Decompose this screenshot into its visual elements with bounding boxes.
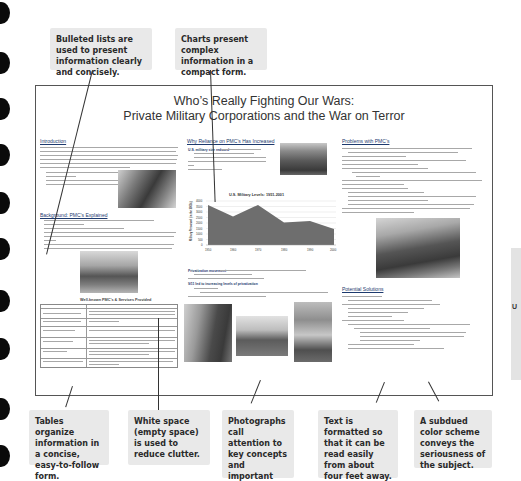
photo-hearing bbox=[376, 218, 460, 278]
svg-text:1950: 1950 bbox=[205, 248, 212, 252]
text-line bbox=[348, 192, 424, 193]
text-line bbox=[348, 324, 470, 325]
table-row bbox=[41, 337, 177, 338]
section-background: Background: PMC’s Explained bbox=[40, 212, 107, 218]
binder-hole bbox=[0, 2, 10, 24]
binder-hole bbox=[0, 238, 10, 260]
text-line bbox=[40, 167, 130, 168]
text-line bbox=[360, 340, 420, 341]
binder-hole bbox=[0, 144, 10, 166]
callout-color-scheme: A subdued color scheme conveys the serio… bbox=[414, 410, 492, 468]
svg-text:1970: 1970 bbox=[255, 248, 262, 252]
text-line bbox=[200, 292, 328, 293]
text-line bbox=[354, 328, 430, 329]
text-line bbox=[40, 155, 178, 156]
text-line bbox=[40, 151, 176, 152]
bullet-line bbox=[46, 176, 76, 177]
text-line bbox=[194, 274, 252, 275]
text-line bbox=[194, 288, 218, 289]
bullet-line bbox=[46, 180, 118, 181]
callout-white-space: White space (empty space) is used to red… bbox=[128, 410, 210, 465]
text-line bbox=[360, 336, 464, 337]
bullet-line bbox=[188, 161, 266, 162]
poster-title-line2: Private Military Corporations and the Wa… bbox=[36, 109, 492, 124]
text-line bbox=[348, 316, 392, 317]
leader-line bbox=[158, 318, 159, 410]
svg-text:0: 0 bbox=[201, 243, 203, 247]
table-row bbox=[41, 348, 177, 349]
svg-text:Military Personnel (in the 100: Military Personnel (in the 1000s) bbox=[189, 201, 193, 241]
text-line bbox=[348, 300, 432, 301]
svg-text:3500: 3500 bbox=[196, 205, 203, 209]
military-levels-chart: 400035003000 250020001500 10005000 19501… bbox=[188, 197, 338, 255]
bullet-line bbox=[188, 169, 222, 170]
svg-text:2000: 2000 bbox=[196, 221, 203, 225]
text-line bbox=[348, 200, 428, 201]
table-row bbox=[41, 308, 177, 309]
bullet-line bbox=[44, 220, 154, 221]
text-line bbox=[342, 212, 414, 213]
section-problems: Problems with PMC’s bbox=[342, 138, 389, 144]
area-chart-svg: 400035003000 250020001500 10005000 19501… bbox=[188, 197, 338, 255]
photo-smoke bbox=[294, 302, 332, 362]
binder-hole bbox=[0, 445, 10, 467]
svg-text:2500: 2500 bbox=[196, 216, 203, 220]
photo-contractor bbox=[236, 316, 288, 356]
binder-hole bbox=[0, 290, 10, 312]
photo-convoy bbox=[80, 251, 138, 293]
text-line bbox=[342, 296, 382, 297]
poster: Who’s Really Fighting Our Wars: Private … bbox=[35, 85, 493, 396]
callout-tables: Tables organize information in a concise… bbox=[29, 410, 109, 465]
text-line bbox=[348, 308, 424, 309]
text-line bbox=[221, 149, 261, 150]
bullet-line bbox=[194, 157, 266, 158]
photo-building bbox=[280, 143, 327, 175]
text-line bbox=[342, 160, 466, 161]
text-line bbox=[356, 176, 380, 177]
text-line bbox=[342, 304, 440, 305]
text-line bbox=[348, 152, 458, 153]
table-row bbox=[41, 318, 177, 319]
text-line bbox=[348, 196, 476, 197]
text-line bbox=[40, 147, 178, 148]
text-line bbox=[220, 270, 306, 271]
table-row bbox=[41, 358, 177, 359]
photo-officials bbox=[184, 304, 232, 362]
svg-text:500: 500 bbox=[198, 238, 203, 242]
section-solutions: Potential Solutions bbox=[342, 286, 383, 292]
side-tab: U bbox=[511, 248, 521, 380]
bullet-line bbox=[44, 244, 174, 245]
text-line bbox=[40, 159, 177, 160]
svg-text:1000: 1000 bbox=[196, 232, 203, 236]
binder-hole bbox=[0, 338, 10, 360]
text-line bbox=[342, 320, 404, 321]
text-line bbox=[342, 148, 472, 149]
bullet-line bbox=[194, 153, 254, 154]
text-line bbox=[342, 164, 418, 165]
poster-title-line1: Who’s Really Fighting Our Wars: bbox=[36, 94, 492, 109]
text-line bbox=[348, 344, 414, 345]
text-line bbox=[188, 296, 266, 297]
section-introduction: Introduction bbox=[40, 138, 66, 144]
svg-text:1990: 1990 bbox=[307, 248, 314, 252]
callout-photographs: Photographs call attention to key concep… bbox=[222, 410, 294, 478]
binder-hole bbox=[0, 52, 10, 74]
subhead-nine-eleven: 9/11 led to increasing levels of privati… bbox=[188, 282, 258, 286]
text-line bbox=[342, 156, 406, 157]
text-line bbox=[40, 163, 176, 164]
text-line bbox=[342, 168, 428, 169]
text-line bbox=[348, 312, 408, 313]
callout-bulleted-lists: Bulleted lists are used to present infor… bbox=[50, 28, 152, 70]
text-line bbox=[342, 188, 408, 189]
section-why-reliance: Why Reliance on PMC’s Has Increased bbox=[187, 138, 274, 144]
bullet-line bbox=[44, 248, 172, 249]
text-line bbox=[342, 184, 404, 185]
text-line bbox=[342, 208, 470, 209]
bullet-line bbox=[44, 236, 174, 237]
binder-hole bbox=[0, 192, 10, 214]
side-tab-letter: U bbox=[512, 303, 517, 310]
callout-charts: Charts present complex information in a … bbox=[175, 28, 267, 70]
svg-text:2000: 2000 bbox=[330, 248, 337, 252]
bullet-line bbox=[44, 232, 176, 233]
callout-text-format: Text is formatted so that it can be read… bbox=[318, 410, 398, 478]
